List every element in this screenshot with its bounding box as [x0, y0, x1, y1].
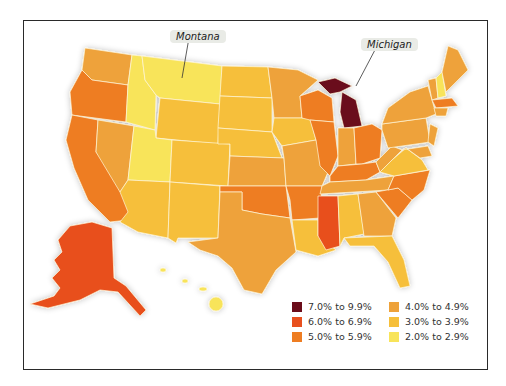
legend-swatch-icon	[292, 317, 302, 327]
michigan-callout-line	[356, 48, 376, 86]
state-arkansas	[286, 186, 322, 220]
state-hawaii-big	[209, 297, 223, 311]
legend-label: 6.0% to 6.9%	[308, 316, 372, 327]
state-ohio	[354, 124, 382, 164]
legend-item: 3.0% to 3.9%	[389, 316, 489, 327]
state-maine	[442, 46, 468, 92]
legend-swatch-icon	[389, 302, 399, 312]
state-michigan-upper	[318, 78, 352, 94]
state-north-dakota	[220, 66, 272, 98]
legend-label: 7.0% to 9.9%	[308, 301, 372, 312]
legend-label: 4.0% to 4.9%	[405, 301, 469, 312]
michigan-callout: Michigan	[361, 38, 418, 51]
legend-item: 4.0% to 4.9%	[389, 301, 489, 312]
legend: 7.0% to 9.9% 4.0% to 4.9% 6.0% to 6.9% 3…	[292, 301, 489, 342]
legend-swatch-icon	[292, 302, 302, 312]
legend-item: 5.0% to 5.9%	[292, 331, 389, 342]
state-michigan	[340, 92, 362, 128]
state-arizona	[120, 180, 170, 238]
state-massachusetts	[432, 98, 458, 108]
legend-swatch-icon	[389, 332, 399, 342]
state-south-dakota	[218, 96, 272, 132]
legend-swatch-icon	[292, 332, 302, 342]
state-hawaii-kauai	[160, 268, 166, 272]
state-wisconsin	[300, 90, 334, 122]
state-kansas	[228, 156, 286, 186]
state-hawaii-oahu	[182, 279, 188, 283]
legend-label: 2.0% to 2.9%	[405, 331, 469, 342]
legend-item: 2.0% to 2.9%	[389, 331, 489, 342]
state-colorado	[170, 140, 230, 186]
state-connecticut	[434, 108, 448, 116]
state-wyoming	[156, 98, 220, 144]
state-mississippi	[318, 196, 340, 250]
state-hawaii-maui	[199, 287, 207, 291]
legend-label: 3.0% to 3.9%	[405, 316, 469, 327]
legend-label: 5.0% to 5.9%	[308, 331, 372, 342]
state-florida	[344, 236, 410, 288]
state-new-york	[382, 86, 436, 124]
legend-item: 7.0% to 9.9%	[292, 301, 389, 312]
montana-callout: Montana	[170, 30, 226, 43]
legend-item: 6.0% to 6.9%	[292, 316, 389, 327]
state-new-mexico	[168, 182, 220, 243]
legend-swatch-icon	[389, 317, 399, 327]
state-indiana	[338, 128, 356, 166]
state-alaska	[30, 222, 146, 316]
state-new-jersey	[428, 124, 438, 146]
